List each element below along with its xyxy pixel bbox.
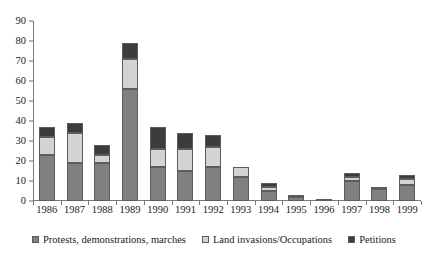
bar-group[interactable] <box>371 21 387 201</box>
x-tick-label: 1996 <box>314 204 335 215</box>
x-tick-label: 1989 <box>120 204 141 215</box>
bar-group[interactable] <box>150 21 166 201</box>
bar-segment-protests[interactable] <box>205 167 221 201</box>
legend-item-petitions[interactable]: Petitions <box>348 234 396 245</box>
bar-segment-land-invasions[interactable] <box>371 187 387 189</box>
x-tick-mark <box>199 201 200 205</box>
bar-segment-land-invasions[interactable] <box>67 133 83 163</box>
x-tick-mark <box>61 201 62 205</box>
bar-group[interactable] <box>233 21 249 201</box>
x-tick-mark <box>255 201 256 205</box>
y-tick-label: 70 <box>4 56 26 67</box>
land-invasions-swatch-icon <box>202 236 209 243</box>
x-tick-mark <box>282 201 283 205</box>
x-tick-label: 1986 <box>36 204 57 215</box>
bar-segment-petitions[interactable] <box>261 183 277 187</box>
y-tick-label: 60 <box>4 76 26 87</box>
bar-segment-protests[interactable] <box>39 155 55 201</box>
legend-label: Land invasions/Occupations <box>213 234 332 245</box>
bar-segment-protests[interactable] <box>150 167 166 201</box>
bar-segment-land-invasions[interactable] <box>39 137 55 155</box>
bar-segment-protests[interactable] <box>371 189 387 201</box>
bar-group[interactable] <box>177 21 193 201</box>
plot-area: 0102030405060708090 19861987198819891990… <box>0 0 428 210</box>
x-tick-label: 1998 <box>369 204 390 215</box>
bar-group[interactable] <box>67 21 83 201</box>
bar-segment-protests[interactable] <box>122 89 138 201</box>
bar-group[interactable] <box>261 21 277 201</box>
bar-segment-petitions[interactable] <box>39 127 55 137</box>
bar-segment-protests[interactable] <box>261 191 277 201</box>
bar-segment-land-invasions[interactable] <box>150 149 166 167</box>
x-tick-label: 1997 <box>341 204 362 215</box>
x-tick-mark <box>116 201 117 205</box>
legend-item-land-invasions[interactable]: Land invasions/Occupations <box>202 234 332 245</box>
bar-segment-protests[interactable] <box>94 163 110 201</box>
bar-segment-protests[interactable] <box>233 177 249 201</box>
chart-legend: Protests, demonstrations, marchesLand in… <box>0 230 428 248</box>
bars-container <box>33 21 421 201</box>
bar-group[interactable] <box>205 21 221 201</box>
x-tick-label: 1988 <box>92 204 113 215</box>
bar-segment-land-invasions[interactable] <box>344 177 360 181</box>
y-tick-label: 90 <box>4 16 26 27</box>
x-tick-mark <box>33 201 34 205</box>
bar-segment-protests[interactable] <box>344 181 360 201</box>
bar-group[interactable] <box>94 21 110 201</box>
stacked-bar-chart: 0102030405060708090 19861987198819891990… <box>0 0 428 255</box>
bar-group[interactable] <box>344 21 360 201</box>
x-tick-label: 1993 <box>230 204 251 215</box>
y-tick-label: 40 <box>4 116 26 127</box>
bar-segment-protests[interactable] <box>67 163 83 201</box>
x-tick-label: 1999 <box>397 204 418 215</box>
x-axis-labels: 1986198719881989199019911992199319941995… <box>33 204 421 222</box>
x-tick-label: 1992 <box>203 204 224 215</box>
x-tick-mark <box>366 201 367 205</box>
x-tick-label: 1991 <box>175 204 196 215</box>
legend-item-protests[interactable]: Protests, demonstrations, marches <box>32 234 186 245</box>
x-tick-mark <box>310 201 311 205</box>
x-tick-mark <box>393 201 394 205</box>
y-tick-label: 50 <box>4 96 26 107</box>
bar-segment-protests[interactable] <box>399 185 415 201</box>
y-tick-label: 10 <box>4 176 26 187</box>
protests-swatch-icon <box>32 236 39 243</box>
x-tick-mark <box>144 201 145 205</box>
bar-segment-land-invasions[interactable] <box>399 179 415 185</box>
bar-segment-protests[interactable] <box>177 171 193 201</box>
bar-segment-petitions[interactable] <box>67 123 83 133</box>
x-tick-label: 1994 <box>258 204 279 215</box>
bar-group[interactable] <box>316 21 332 201</box>
bar-segment-land-invasions[interactable] <box>288 195 304 197</box>
x-tick-label: 1987 <box>64 204 85 215</box>
bar-segment-petitions[interactable] <box>344 173 360 177</box>
bar-segment-petitions[interactable] <box>150 127 166 149</box>
bar-segment-land-invasions[interactable] <box>94 155 110 163</box>
bar-group[interactable] <box>399 21 415 201</box>
bar-segment-protests[interactable] <box>316 199 332 201</box>
bar-segment-land-invasions[interactable] <box>233 167 249 177</box>
bar-segment-land-invasions[interactable] <box>261 187 277 191</box>
bar-segment-land-invasions[interactable] <box>177 149 193 171</box>
bar-segment-petitions[interactable] <box>94 145 110 155</box>
bar-segment-land-invasions[interactable] <box>122 59 138 89</box>
legend-label: Petitions <box>359 234 396 245</box>
bar-group[interactable] <box>288 21 304 201</box>
x-tick-mark <box>338 201 339 205</box>
bar-group[interactable] <box>39 21 55 201</box>
legend-label: Protests, demonstrations, marches <box>43 234 186 245</box>
y-tick-label: 0 <box>4 196 26 207</box>
y-tick-label: 30 <box>4 136 26 147</box>
x-tick-mark <box>88 201 89 205</box>
y-axis-labels: 0102030405060708090 <box>4 0 26 210</box>
bar-group[interactable] <box>122 21 138 201</box>
x-tick-label: 1995 <box>286 204 307 215</box>
bar-segment-protests[interactable] <box>288 197 304 201</box>
x-tick-label: 1990 <box>147 204 168 215</box>
bar-segment-land-invasions[interactable] <box>205 147 221 167</box>
bar-segment-petitions[interactable] <box>177 133 193 149</box>
bar-segment-petitions[interactable] <box>205 135 221 147</box>
bar-segment-petitions[interactable] <box>122 43 138 59</box>
x-tick-mark <box>421 201 422 205</box>
bar-segment-petitions[interactable] <box>399 175 415 179</box>
